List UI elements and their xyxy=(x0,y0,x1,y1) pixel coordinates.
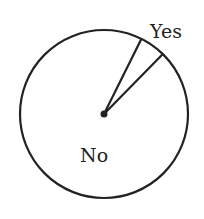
pie-chart: Yes No xyxy=(0,0,204,219)
slice-label-no: No xyxy=(80,144,108,166)
slice-label-yes: Yes xyxy=(149,20,182,42)
pie-center-dot xyxy=(101,111,108,118)
